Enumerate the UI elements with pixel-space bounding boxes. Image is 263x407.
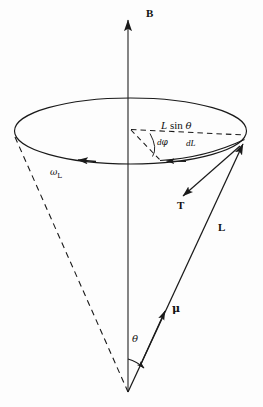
dphi-angle-arc (150, 134, 155, 157)
dL-direction-arrow (167, 161, 187, 162)
dphi-phi: φ (162, 137, 168, 147)
dL-label: dL (186, 139, 196, 148)
radius-length-theta: θ (185, 120, 191, 131)
torque-vector-line (183, 146, 240, 196)
larmor-frequency-label: ωL (50, 168, 62, 180)
magnetic-moment-vector-arrow (140, 311, 165, 366)
magnetic-moment-label: μ (172, 303, 180, 314)
precession-circle (15, 98, 247, 164)
radius-length-label: L sin θ (161, 120, 192, 131)
angular-momentum-label: L (218, 222, 225, 233)
precession-diagram-canvas (0, 0, 263, 407)
radius-dashed-line-prev (131, 130, 160, 160)
radius-length-sin: sin (170, 119, 183, 131)
physics-precession-figure: B L T μ θ ωL L sin θ dφ dL (0, 0, 263, 407)
cone-angle-label: θ (132, 334, 138, 344)
dL-L: L (191, 138, 196, 148)
dphi-label: dφ (157, 138, 168, 147)
larmor-frequency-subscript: L (57, 172, 62, 180)
magnetic-field-label: B (146, 8, 153, 19)
torque-label: T (177, 200, 184, 211)
cone-left-generator-dashed (15, 137, 128, 392)
